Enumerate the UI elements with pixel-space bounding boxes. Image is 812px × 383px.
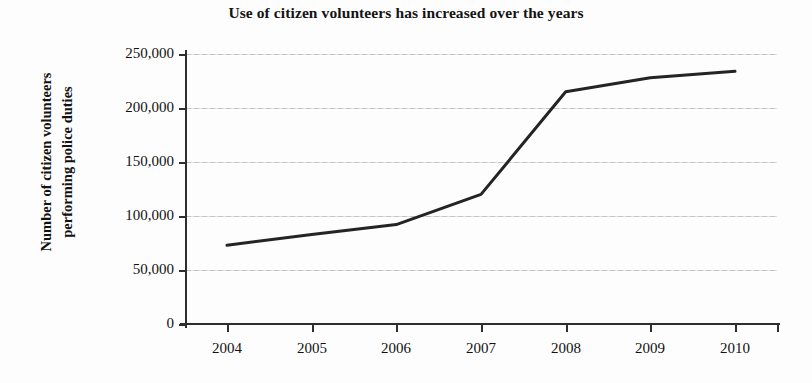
y-axis-tick-label: 150,000 bbox=[24, 153, 174, 170]
x-axis-tick-label: 2009 bbox=[610, 340, 690, 357]
gridline bbox=[186, 216, 777, 217]
x-axis-tick-label: 2007 bbox=[441, 340, 521, 357]
y-axis-tick-label: 200,000 bbox=[24, 99, 174, 116]
x-axis-tick-label: 2005 bbox=[272, 340, 352, 357]
chart-figure: Use of citizen volunteers has increased … bbox=[0, 0, 812, 383]
y-axis-tick-label: 50,000 bbox=[24, 261, 174, 278]
gridline bbox=[186, 54, 777, 55]
y-axis-line bbox=[185, 50, 187, 328]
series-line-volunteers bbox=[227, 71, 735, 245]
x-axis-tick-label: 2004 bbox=[187, 340, 267, 357]
y-axis-tick-label: 100,000 bbox=[24, 207, 174, 224]
x-axis-tick-label: 2006 bbox=[356, 340, 436, 357]
x-axis-line bbox=[180, 323, 780, 325]
gridline bbox=[186, 108, 777, 109]
gridline bbox=[186, 162, 777, 163]
gridline bbox=[186, 270, 777, 271]
x-axis-tick-label: 2010 bbox=[695, 340, 775, 357]
x-axis-tick-label: 2008 bbox=[526, 340, 606, 357]
y-axis-tick-label: 250,000 bbox=[24, 45, 174, 62]
y-axis-tick-label: 0 bbox=[24, 315, 174, 332]
chart-title: Use of citizen volunteers has increased … bbox=[0, 4, 812, 22]
